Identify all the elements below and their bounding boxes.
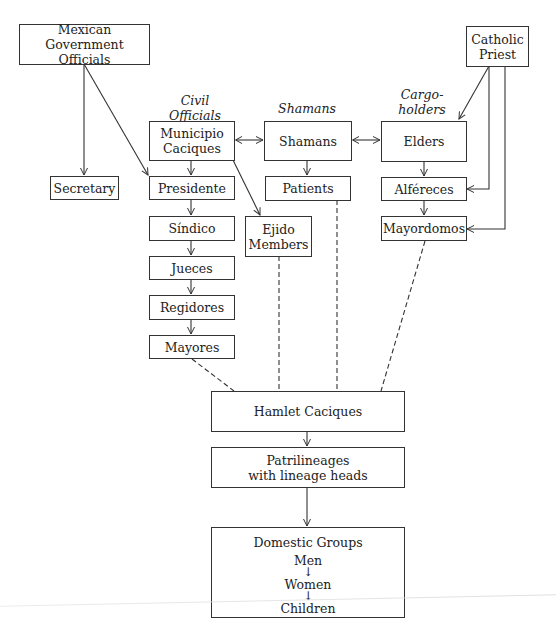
edge-municipio-ejido (233, 160, 260, 215)
edge-mexgov-presidente (84, 64, 148, 175)
node-ejido-members: Ejido Members (245, 216, 312, 257)
label-shamans-text: Shamans (278, 101, 336, 116)
node-text-line1: Catholic (471, 32, 524, 47)
node-text: Presidente (158, 181, 226, 196)
node-mayordomos: Mayordomos (381, 216, 467, 241)
node-regidores: Regidores (149, 295, 235, 320)
node-text-line1: Mexican Government (20, 22, 149, 52)
edge-priest-mayordomos (467, 66, 505, 229)
node-mayores: Mayores (149, 335, 235, 359)
label-civil-line1: Civil (160, 93, 230, 108)
node-domestic-groups: Domestic Groups Men ↓ Women ↓ Children (211, 527, 405, 618)
node-text-line2: Members (249, 237, 309, 252)
label-shamans: Shamans (270, 101, 344, 116)
edge-priest-elders (459, 66, 489, 119)
node-alfereces: Alféreces (381, 177, 467, 201)
node-municipio-caciques: Municipio Caciques (149, 121, 235, 161)
node-text: Secretary (54, 181, 116, 196)
node-jueces: Jueces (149, 256, 235, 280)
node-presidente: Presidente (149, 176, 235, 200)
member-children: Children (280, 601, 335, 616)
node-hamlet-caciques: Hamlet Caciques (211, 391, 405, 432)
node-catholic-priest: Catholic Priest (466, 26, 529, 67)
node-text: Patients (282, 181, 333, 196)
edge-mayores-hamlet (192, 359, 234, 391)
node-text: Regidores (160, 300, 224, 315)
node-mexican-government-officials: Mexican Government Officials (19, 24, 150, 65)
node-text-line1: Patrilineages (266, 453, 349, 468)
node-text-line2: with lineage heads (248, 468, 367, 483)
down-arrow-icon: ↓ (303, 568, 313, 577)
node-text: Mayores (165, 340, 220, 355)
node-text-line2: Priest (479, 47, 516, 62)
domestic-groups-title: Domestic Groups (253, 535, 362, 550)
node-shamans: Shamans (264, 121, 352, 161)
node-text: Mayordomos (383, 221, 465, 236)
node-text-line1: Municipio (160, 126, 223, 141)
node-text: Hamlet Caciques (254, 404, 362, 419)
node-text: Elders (404, 134, 445, 149)
node-elders: Elders (381, 121, 467, 162)
node-text-line1: Ejido (262, 222, 295, 237)
label-cargo-line1: Cargo- (393, 87, 451, 102)
node-patrilineages: Patrilineages with lineage heads (211, 447, 405, 488)
label-cargo-line2: holders (393, 102, 451, 117)
node-secretary: Secretary (50, 176, 119, 200)
node-text: Shamans (279, 134, 337, 149)
node-text: Alféreces (394, 182, 453, 197)
node-text-line2: Caciques (163, 141, 221, 156)
node-text: Síndico (168, 221, 215, 236)
node-sindico: Síndico (149, 216, 235, 241)
label-cargo-holders: Cargo- holders (393, 87, 451, 117)
node-text: Jueces (171, 261, 212, 276)
node-patients: Patients (265, 176, 351, 201)
edge-mayordomos-hamlet (381, 241, 425, 391)
label-civil-officials: Civil Officials (160, 93, 230, 123)
node-text-line2: Officials (59, 52, 111, 67)
